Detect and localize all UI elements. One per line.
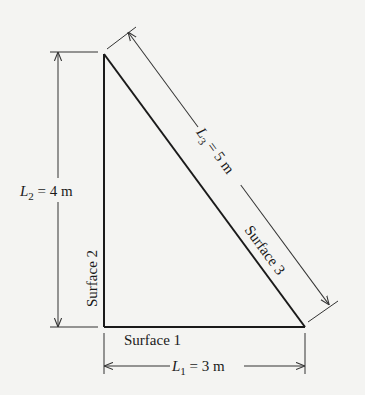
surface-1-label: Surface 1 — [124, 332, 181, 348]
triangle — [104, 54, 305, 327]
triangle-diagram: L2 = 4 m L1 = 3 m L3 = 5 m Surface 1 Sur… — [0, 0, 365, 395]
surface-2-label: Surface 2 — [84, 250, 100, 307]
l1-label: L1 = 3 m — [171, 358, 225, 377]
l3-dimension: L3 = 5 m — [107, 26, 338, 322]
surface-3-line — [104, 54, 305, 327]
